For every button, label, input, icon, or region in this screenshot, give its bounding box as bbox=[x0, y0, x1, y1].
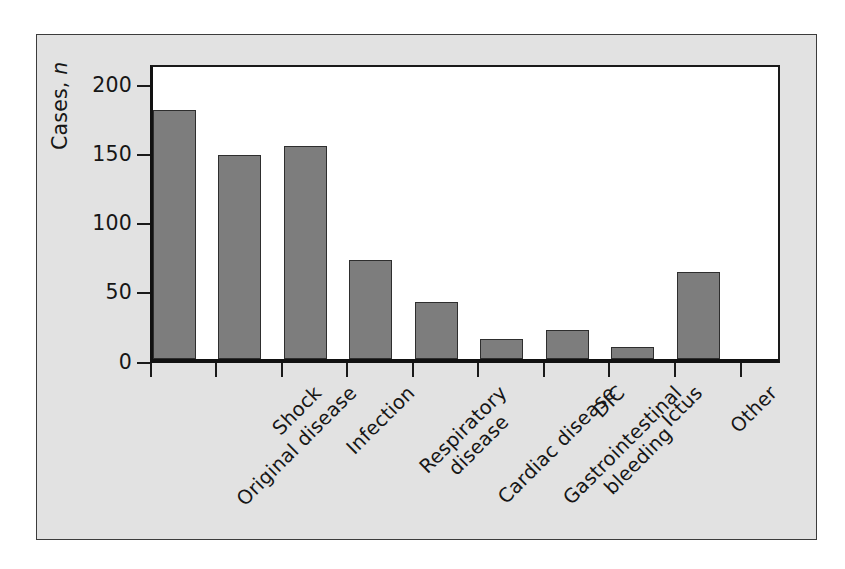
bar-infection[interactable] bbox=[284, 146, 327, 359]
x-tick-mark-4 bbox=[412, 363, 414, 377]
y-tick-label-0: 0 bbox=[119, 352, 132, 373]
y-axis-title: Cases, n bbox=[48, 62, 72, 151]
x-tick-mark-0 bbox=[150, 363, 152, 377]
x-tick-mark-8 bbox=[674, 363, 676, 377]
y-axis-title-text: Cases, bbox=[48, 81, 72, 150]
plot-area bbox=[150, 65, 780, 363]
y-tick-mark-200 bbox=[137, 85, 150, 87]
y-tick-mark-50 bbox=[137, 292, 150, 294]
x-tick-mark-7 bbox=[608, 363, 610, 377]
bar-respiratory-disease[interactable] bbox=[349, 260, 392, 359]
x-tick-mark-3 bbox=[346, 363, 348, 377]
x-tick-mark-1 bbox=[215, 363, 217, 377]
bar-cardiac-disease[interactable] bbox=[415, 302, 458, 359]
y-axis-title-italic-n: n bbox=[48, 62, 72, 75]
bar-dic[interactable] bbox=[546, 330, 589, 359]
y-tick-label-150: 150 bbox=[92, 144, 132, 165]
bar-ictus[interactable] bbox=[611, 347, 654, 359]
x-tick-mark-9 bbox=[740, 363, 742, 377]
figure-root: 200 150 100 50 0 Cases, n bbox=[0, 0, 845, 569]
bar-gastrointestinal-bleeding[interactable] bbox=[480, 339, 523, 359]
y-axis: 200 150 100 50 0 bbox=[0, 0, 150, 420]
y-tick-mark-0 bbox=[137, 362, 150, 364]
x-tick-mark-6 bbox=[543, 363, 545, 377]
bar-shock[interactable] bbox=[218, 155, 261, 359]
bars-layer bbox=[153, 67, 778, 359]
y-tick-mark-150 bbox=[137, 154, 150, 156]
bar-other[interactable] bbox=[677, 272, 720, 359]
x-tick-mark-2 bbox=[281, 363, 283, 377]
bar-original-disease[interactable] bbox=[153, 110, 196, 359]
y-tick-label-50: 50 bbox=[106, 282, 133, 303]
y-tick-mark-100 bbox=[137, 223, 150, 225]
y-tick-label-100: 100 bbox=[92, 213, 132, 234]
x-tick-mark-5 bbox=[477, 363, 479, 377]
y-tick-label-200: 200 bbox=[92, 75, 132, 96]
